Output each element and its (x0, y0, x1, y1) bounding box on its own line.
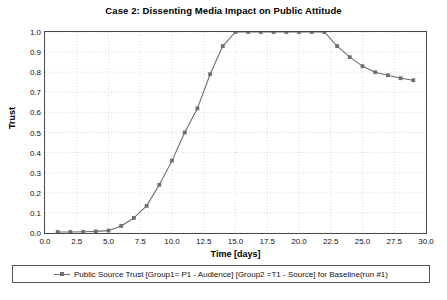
chart-figure: Case 2: Dissenting Media Impact on Publi… (0, 0, 447, 300)
x-tick-label: 15.0 (228, 237, 244, 246)
y-tick-label: 0.7 (3, 88, 41, 97)
plot-area (44, 31, 427, 234)
legend-entry-label: Public Source Trust [Group1= P1 - Audien… (74, 270, 388, 279)
x-tick-label: 20.0 (291, 237, 307, 246)
y-tick-label: 0.6 (3, 108, 41, 117)
y-tick-label: 0.8 (3, 68, 41, 77)
x-tick-label: 27.5 (386, 237, 402, 246)
y-tick-label: 0.2 (3, 188, 41, 197)
y-tick-label: 0.9 (3, 48, 41, 57)
y-tick-label: 0.0 (3, 229, 41, 238)
legend-marker-icon (54, 270, 70, 278)
y-axis-ticks: 0.00.10.20.30.40.50.60.70.80.91.0 (0, 31, 41, 234)
plot-canvas (45, 32, 426, 233)
y-tick-label: 0.5 (3, 128, 41, 137)
x-tick-label: 7.5 (135, 237, 146, 246)
x-tick-label: 2.5 (71, 237, 82, 246)
x-axis-ticks: 0.02.55.07.510.012.515.017.520.022.525.0… (44, 237, 427, 249)
x-tick-label: 5.0 (103, 237, 114, 246)
y-tick-label: 1.0 (3, 28, 41, 37)
legend-entry: Public Source Trust [Group1= P1 - Audien… (54, 270, 388, 279)
x-axis-label: Time [days] (44, 249, 427, 259)
x-tick-label: 0.0 (39, 237, 50, 246)
x-tick-label: 17.5 (259, 237, 275, 246)
chart-legend: Public Source Trust [Group1= P1 - Audien… (12, 265, 430, 283)
y-tick-label: 0.1 (3, 208, 41, 217)
y-tick-label: 0.4 (3, 148, 41, 157)
x-tick-label: 30.0 (418, 237, 434, 246)
x-tick-label: 22.5 (323, 237, 339, 246)
x-tick-label: 10.0 (164, 237, 180, 246)
x-tick-label: 25.0 (355, 237, 371, 246)
y-tick-label: 0.3 (3, 168, 41, 177)
chart-title: Case 2: Dissenting Media Impact on Publi… (0, 5, 447, 16)
x-tick-label: 12.5 (196, 237, 212, 246)
